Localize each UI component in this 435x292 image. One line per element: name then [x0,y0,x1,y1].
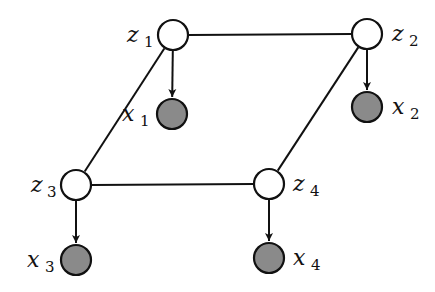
label-x3: x [27,247,40,272]
label-z2: z [391,21,404,46]
edge-z1-z2 [189,34,351,35]
label-z3-subscript: 3 [47,183,57,201]
node-x4-observed [254,243,284,273]
graphical-model-diagram: z1z2z3z4x1x2x3x4 [0,0,435,292]
label-z4-subscript: 4 [310,182,320,200]
label-x4: x [293,245,306,270]
node-x1-observed [157,99,187,129]
node-x3-observed [61,245,91,275]
nodes-layer [61,19,382,275]
label-x2-subscript: 2 [410,105,420,123]
label-z2-subscript: 2 [409,32,419,50]
label-x3-subscript: 3 [45,258,55,276]
label-x2: x [392,94,405,119]
node-z4-latent [254,169,284,199]
node-z1-latent [158,20,188,50]
label-z1-subscript: 1 [144,33,154,51]
label-x1-subscript: 1 [140,112,150,130]
node-z2-latent [352,19,382,49]
label-z3: z [30,172,43,197]
node-x2-observed [352,92,382,122]
label-z1: z [126,22,139,47]
label-z4: z [292,171,305,196]
edge-z2-z4 [278,47,358,170]
label-x1: x [122,101,135,126]
edge-z3-z4 [92,184,253,185]
edges-layer [76,34,367,243]
node-z3-latent [61,170,91,200]
arrow-z1-x1 [172,51,173,97]
labels-layer: z1z2z3z4x1x2x3x4 [27,21,420,276]
label-x4-subscript: 4 [311,256,321,274]
